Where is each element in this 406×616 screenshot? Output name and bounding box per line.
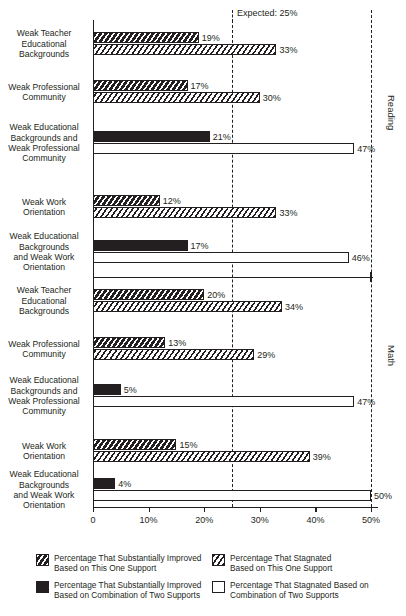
bar-stagnated	[93, 207, 276, 218]
row-category-label-line: Orientation	[0, 500, 88, 510]
bar-value-label-improved: 17%	[191, 241, 209, 251]
row-category-label-line: Weak Educational	[0, 231, 88, 241]
x-tick-mark	[149, 507, 150, 512]
group-divider-line	[93, 277, 373, 279]
x-tick-label: 50%	[362, 515, 380, 525]
bar-value-label-stagnated: 47%	[357, 397, 375, 407]
legend-swatch-stagnated-single	[212, 554, 225, 566]
row-category-label-line: Weak Educational	[0, 375, 88, 385]
legend-label-line: Based on This One Support	[54, 563, 214, 573]
x-tick-mark	[371, 507, 372, 512]
bar-stagnated	[93, 490, 371, 501]
row-category-label-line: Orientation	[0, 451, 88, 461]
legend-label-line: Based on Combination of Two Supports	[54, 590, 214, 600]
row-category-label-line: Weak Professional	[0, 396, 88, 406]
row-category-label-line: and Weak Work	[0, 252, 88, 262]
legend-label-line: Percentage That Stagnated	[230, 553, 390, 563]
legend-label-stagnated-single: Percentage That StagnatedBased on This O…	[230, 553, 390, 573]
row-category-label: Weak ProfessionalCommunity	[0, 339, 88, 360]
row-category-label-line: Backgrounds	[0, 49, 88, 59]
bar-improved	[93, 195, 160, 206]
bar-improved	[93, 337, 165, 348]
bar-value-label-stagnated: 39%	[313, 452, 331, 462]
bar-value-label-improved: 13%	[168, 338, 186, 348]
bar-value-label-improved: 4%	[118, 479, 131, 489]
bar-value-label-improved: 21%	[213, 132, 231, 142]
x-tick-mark	[315, 507, 316, 512]
x-tick-label: 0	[90, 515, 95, 525]
row-category-label-line: Community	[0, 406, 88, 416]
x-tick-mark	[93, 507, 94, 512]
bar-value-label-improved: 5%	[124, 385, 137, 395]
bar-value-label-stagnated: 30%	[263, 93, 281, 103]
x-tick-label: 20%	[195, 515, 213, 525]
bar-improved	[93, 80, 188, 91]
bar-stagnated	[93, 451, 310, 462]
row-category-label-line: Educational	[0, 296, 88, 306]
legend-label-line: Based on This One Support	[230, 563, 390, 573]
row-category-label-line: Backgrounds	[0, 242, 88, 252]
bar-value-label-improved: 19%	[202, 33, 220, 43]
row-category-label-line: Weak Educational	[0, 122, 88, 132]
row-category-label-line: Weak Professional	[0, 339, 88, 349]
bar-value-label-stagnated: 47%	[357, 144, 375, 154]
legend-label-line: Percentage That Substantially Improved	[54, 580, 214, 590]
bar-improved	[93, 478, 115, 489]
row-category-label-line: Backgrounds	[0, 306, 88, 316]
bar-value-label-stagnated: 46%	[352, 253, 370, 263]
row-category-label-line: Backgrounds and	[0, 386, 88, 396]
row-category-label-line: Orientation	[0, 207, 88, 217]
row-category-label-line: Community	[0, 349, 88, 359]
row-category-label: Weak WorkOrientation	[0, 197, 88, 218]
row-category-label-line: Orientation	[0, 262, 88, 272]
row-category-label-line: Weak Work	[0, 197, 88, 207]
row-category-label: Weak TeacherEducationalBackgrounds	[0, 28, 88, 59]
row-category-label: Weak WorkOrientation	[0, 441, 88, 462]
legend-label-line: Percentage That Stagnated Based on	[230, 580, 390, 590]
chart-legend: Percentage That Substantially ImprovedBa…	[0, 551, 406, 611]
group-divider-cap	[370, 272, 372, 282]
legend-label-line: Combination of Two Supports	[230, 590, 390, 600]
bar-value-label-stagnated: 50%	[374, 491, 392, 501]
bar-stagnated	[93, 252, 349, 263]
group-label-math: Math	[386, 345, 397, 366]
x-tick-label: 10%	[140, 515, 158, 525]
x-tick-mark	[204, 507, 205, 512]
bar-value-label-stagnated: 29%	[257, 350, 275, 360]
bar-improved	[93, 240, 188, 251]
bar-value-label-improved: 15%	[179, 440, 197, 450]
bar-improved	[93, 384, 121, 395]
expected-annotation-label: Expected: 25%	[237, 8, 298, 18]
x-tick-label: 30%	[251, 515, 269, 525]
row-category-label-line: Weak Teacher	[0, 285, 88, 295]
row-category-label: Weak EducationalBackgrounds andWeak Prof…	[0, 122, 88, 164]
row-category-label-line: Community	[0, 153, 88, 163]
legend-swatch-improved-combo	[36, 581, 49, 593]
bar-value-label-stagnated: 33%	[279, 45, 297, 55]
bar-stagnated	[93, 44, 276, 55]
row-category-label-line: Weak Teacher	[0, 28, 88, 38]
row-category-label-line: Weak Professional	[0, 82, 88, 92]
row-category-label-line: Backgrounds and	[0, 133, 88, 143]
bar-improved	[93, 32, 199, 43]
bar-improved	[93, 131, 210, 142]
legend-swatch-stagnated-combo	[212, 581, 225, 593]
row-category-label-line: and Weak Work	[0, 490, 88, 500]
row-category-label: Weak EducationalBackgroundsand Weak Work…	[0, 469, 88, 511]
legend-label-improved-combo: Percentage That Substantially ImprovedBa…	[54, 580, 214, 600]
bar-improved	[93, 289, 204, 300]
x-axis-line	[93, 507, 378, 508]
row-category-label: Weak EducationalBackgroundsand Weak Work…	[0, 231, 88, 273]
row-category-label-line: Educational	[0, 39, 88, 49]
row-category-label: Weak TeacherEducationalBackgrounds	[0, 285, 88, 316]
row-category-label: Weak ProfessionalCommunity	[0, 82, 88, 103]
x-tick-mark	[260, 507, 261, 512]
row-category-label: Weak EducationalBackgrounds andWeak Prof…	[0, 375, 88, 417]
group-label-reading: Reading	[386, 95, 397, 130]
row-category-label-line: Weak Professional	[0, 143, 88, 153]
bar-improved	[93, 439, 176, 450]
row-category-label-line: Backgrounds	[0, 480, 88, 490]
bar-chart: Expected: 25% 010%20%30%40%50% Weak Teac…	[0, 0, 406, 616]
row-category-label-line: Weak Work	[0, 441, 88, 451]
bar-value-label-improved: 20%	[207, 290, 225, 300]
